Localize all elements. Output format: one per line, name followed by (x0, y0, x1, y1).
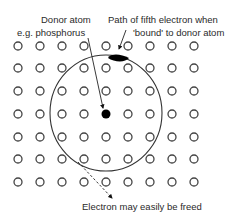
silicon-atom (190, 42, 198, 50)
silicon-atom (190, 110, 198, 118)
silicon-atom (58, 133, 66, 141)
silicon-atom (58, 64, 66, 72)
silicon-atom (190, 87, 198, 95)
silicon-atom (168, 178, 176, 186)
silicon-atom (168, 133, 176, 141)
donor-atom-dot (102, 110, 111, 119)
silicon-atom (80, 178, 88, 186)
silicon-atom (124, 178, 132, 186)
silicon-atom (36, 64, 44, 72)
silicon-atom (102, 64, 110, 72)
silicon-atom (124, 155, 132, 163)
silicon-atom (190, 178, 198, 186)
silicon-atom (14, 42, 22, 50)
freed-electron-label: Electron may easily be freed (82, 202, 202, 212)
silicon-atom (124, 133, 132, 141)
freed-electron-dashed-arrow (78, 162, 112, 198)
silicon-atom (58, 178, 66, 186)
silicon-atom (102, 133, 110, 141)
silicon-atom (36, 42, 44, 50)
silicon-atom (14, 64, 22, 72)
silicon-atom (124, 110, 132, 118)
silicon-atom (146, 178, 154, 186)
electron-path-label-line1: Path of fifth electron when (108, 15, 218, 25)
electron-path-label-line2: 'bound' to donor atom (133, 28, 224, 38)
silicon-atom (14, 87, 22, 95)
silicon-atom (168, 42, 176, 50)
silicon-atom (146, 87, 154, 95)
silicon-atom (146, 133, 154, 141)
silicon-atom (124, 64, 132, 72)
silicon-atom (146, 42, 154, 50)
silicon-atom (80, 133, 88, 141)
silicon-atom (102, 178, 110, 186)
silicon-atom (14, 133, 22, 141)
donor-example-label: e.g. phosphorus (17, 28, 85, 38)
silicon-atom (146, 110, 154, 118)
donor-atom-label: Donor atom (41, 15, 91, 25)
silicon-atom (36, 133, 44, 141)
silicon-atom (14, 178, 22, 186)
silicon-atom (80, 155, 88, 163)
bound-electron-blob (108, 55, 129, 62)
silicon-atom (190, 133, 198, 141)
silicon-atom (168, 87, 176, 95)
silicon-atom (14, 110, 22, 118)
silicon-atom (102, 155, 110, 163)
silicon-atom (36, 155, 44, 163)
silicon-atom (190, 64, 198, 72)
silicon-atom (58, 87, 66, 95)
silicon-atom (14, 155, 22, 163)
silicon-atom (190, 155, 198, 163)
silicon-atom (124, 87, 132, 95)
silicon-atom (102, 87, 110, 95)
silicon-atom (80, 110, 88, 118)
silicon-atom (58, 155, 66, 163)
silicon-atom (168, 110, 176, 118)
path-leader-line (119, 30, 126, 49)
silicon-atom (58, 42, 66, 50)
silicon-atom (168, 155, 176, 163)
silicon-atom (58, 110, 66, 118)
silicon-atom (36, 87, 44, 95)
silicon-atom (146, 155, 154, 163)
silicon-atom (80, 42, 88, 50)
silicon-atom (168, 64, 176, 72)
silicon-atom (102, 42, 110, 50)
silicon-atom (124, 42, 132, 50)
silicon-atom (80, 87, 88, 95)
silicon-atom (36, 110, 44, 118)
silicon-atom (36, 178, 44, 186)
silicon-atom (80, 64, 88, 72)
donor-leader-line (88, 38, 103, 108)
silicon-atom (146, 64, 154, 72)
